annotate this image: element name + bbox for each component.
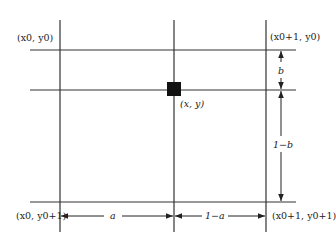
- dimension-label-one-minus-a: 1−a: [205, 211, 225, 221]
- corner-label-bottom-left: (x0, y0+1): [16, 211, 66, 221]
- dimension-label-a: a: [110, 211, 116, 221]
- bilinear-interpolation-diagram: (x0, y0) (x0+1, y0) (x0, y0+1) (x0+1, y0…: [0, 0, 336, 247]
- point-label: (x, y): [180, 99, 204, 109]
- corner-label-bottom-right: (x0+1, y0+1): [272, 211, 336, 221]
- dimension-label-one-minus-b: 1−b: [273, 140, 293, 150]
- dimension-label-b: b: [278, 66, 284, 76]
- corner-label-top-left: (x0, y0): [17, 33, 53, 43]
- corner-label-top-right: (x0+1, y0): [270, 32, 320, 42]
- interpolation-point: [167, 82, 181, 96]
